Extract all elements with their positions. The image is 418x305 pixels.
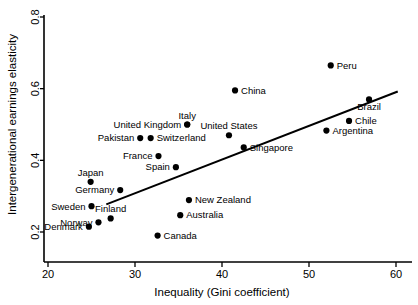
data-point (323, 127, 329, 133)
data-point-label: United States (200, 120, 257, 131)
data-point (137, 135, 143, 141)
x-tick-label: 30 (129, 268, 141, 280)
x-tick-label: 20 (42, 268, 54, 280)
data-point (173, 164, 179, 170)
x-tick-label: 40 (216, 268, 228, 280)
data-point-label: Japan (78, 167, 104, 178)
data-point-label: Peru (337, 60, 357, 71)
data-point (328, 62, 334, 68)
x-axis-title: Inequality (Gini coefficient) (154, 286, 289, 298)
y-tick-label: 0.4 (29, 153, 41, 168)
data-point-label: Finland (95, 203, 126, 214)
y-axis-title: Intergenerational earnings elasticity (6, 34, 18, 215)
data-point-label: Norway (60, 217, 92, 228)
data-point-label: Sweden (51, 201, 85, 212)
data-point-label: France (123, 150, 153, 161)
data-point (108, 215, 114, 221)
data-point (184, 121, 190, 127)
data-point (232, 87, 238, 93)
data-point-label: Argentina (332, 125, 373, 136)
data-point-label: Canada (164, 230, 198, 241)
x-tick-label: 60 (390, 268, 402, 280)
data-point (241, 144, 247, 150)
x-tick-label: 50 (303, 268, 315, 280)
data-point (226, 132, 232, 138)
y-tick-label: 0.8 (29, 9, 41, 24)
data-point-label: Pakistan (98, 132, 134, 143)
data-point (155, 232, 161, 238)
data-point-label: New Zealand (195, 194, 251, 205)
scatter-chart-figure: 0.20.40.60.82030405060Inequality (Gini c… (0, 0, 418, 305)
data-point-label: Brazil (357, 101, 381, 112)
data-point (117, 187, 123, 193)
data-point-label: Singapore (250, 142, 293, 153)
y-tick-label: 0.6 (29, 81, 41, 96)
data-point-label: Switzerland (157, 132, 206, 143)
data-point (95, 219, 101, 225)
data-point (186, 197, 192, 203)
data-point-label: United Kingdom (114, 119, 182, 130)
data-point (88, 179, 94, 185)
data-point (346, 118, 352, 124)
data-point-label: Germany (75, 184, 114, 195)
y-tick-label: 0.2 (29, 224, 41, 239)
plot-area: 0.20.40.60.82030405060Inequality (Gini c… (0, 0, 418, 305)
data-point-label: China (241, 85, 267, 96)
data-point-label: Spain (146, 161, 170, 172)
data-point (177, 212, 183, 218)
data-point (88, 203, 94, 209)
data-point (148, 135, 154, 141)
data-point-label: Italy (178, 110, 196, 121)
data-point-label: Australia (186, 209, 224, 220)
data-point (155, 153, 161, 159)
